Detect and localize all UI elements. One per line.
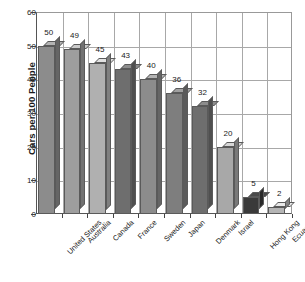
bar-front-face xyxy=(38,46,55,214)
bar xyxy=(89,58,111,215)
bar xyxy=(192,101,214,214)
x-tick-label: France xyxy=(136,218,159,241)
bar-front-face xyxy=(64,49,81,214)
x-tick-label: Israel xyxy=(236,218,255,237)
bar-side-face xyxy=(80,39,85,209)
bar xyxy=(217,142,239,214)
bar-side-face xyxy=(157,69,162,209)
x-tick-mark xyxy=(215,214,216,218)
bar xyxy=(243,192,265,214)
bar-side-face xyxy=(55,36,60,209)
bar-value-label: 43 xyxy=(113,51,139,60)
x-tick-mark xyxy=(190,214,191,218)
x-tick-mark xyxy=(292,214,293,218)
bar-value-label: 5 xyxy=(241,179,267,188)
bar-side-face xyxy=(131,59,136,209)
bar-side-face xyxy=(259,187,264,209)
bar-front-face xyxy=(268,207,285,214)
bar-value-label: 49 xyxy=(62,31,88,40)
bar xyxy=(38,41,60,214)
x-tick-mark xyxy=(113,214,114,218)
bar-front-face xyxy=(243,197,260,214)
bar-front-face xyxy=(115,69,132,214)
y-tick-mark xyxy=(31,214,36,215)
bar-value-label: 2 xyxy=(266,189,292,198)
x-tick-mark xyxy=(241,214,242,218)
bar-value-label: 32 xyxy=(190,88,216,97)
x-tick-mark xyxy=(266,214,267,218)
bar-side-face xyxy=(208,96,213,209)
bar-side-face xyxy=(234,137,239,209)
bar-value-label: 20 xyxy=(215,129,241,138)
bar-front-face xyxy=(166,93,183,214)
gridline-vertical xyxy=(267,13,268,213)
y-axis-ticks: 0102030405060 xyxy=(0,0,36,282)
bar xyxy=(268,202,290,214)
bar-side-face xyxy=(106,53,111,210)
bar xyxy=(140,74,162,214)
bar xyxy=(115,64,137,214)
bar-front-face xyxy=(89,63,106,215)
bar-value-label: 36 xyxy=(164,75,190,84)
bar-side-face xyxy=(183,83,188,209)
bar-chart: Cars per 100 People 0102030405060 504945… xyxy=(0,0,305,282)
x-tick-label: Japan xyxy=(186,218,207,239)
x-tick-label: Canada xyxy=(111,218,136,243)
bar-front-face xyxy=(140,79,157,214)
bar-value-label: 40 xyxy=(138,61,164,70)
bar-value-label: 50 xyxy=(36,28,62,37)
x-tick-mark xyxy=(138,214,139,218)
x-tick-label: Sweden xyxy=(162,218,188,244)
x-tick-mark xyxy=(62,214,63,218)
bar xyxy=(166,88,188,214)
bar-value-label: 45 xyxy=(87,45,113,54)
bar-front-face xyxy=(217,147,234,214)
x-tick-mark xyxy=(164,214,165,218)
bar xyxy=(64,44,86,214)
x-tick-mark xyxy=(87,214,88,218)
bar-front-face xyxy=(192,106,209,214)
